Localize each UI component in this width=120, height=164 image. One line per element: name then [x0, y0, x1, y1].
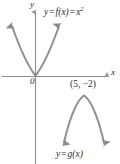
curve-f-label-eq1: = — [48, 7, 55, 17]
curve-g-label-eq: = — [60, 149, 67, 159]
curve-f-label: y=f(x)=x2 — [44, 6, 84, 18]
origin-label: 0 — [30, 77, 35, 86]
x-axis-label: x — [111, 68, 115, 77]
curve-g-parabola — [64, 96, 104, 144]
graph-canvas — [0, 0, 120, 164]
y-axis-label: y — [30, 0, 34, 9]
math-figure: y x 0 y=f(x)=x2 (5, −2) y=g(x) — [0, 0, 120, 164]
curve-f-label-exponent: 2 — [80, 5, 83, 12]
vertex-point-annotation: (5, −2) — [70, 80, 96, 90]
curve-g-label: y=g(x) — [56, 150, 83, 160]
curve-g-label-gx: g(x) — [68, 149, 83, 159]
curve-f-label-fx: f(x) — [56, 7, 69, 17]
